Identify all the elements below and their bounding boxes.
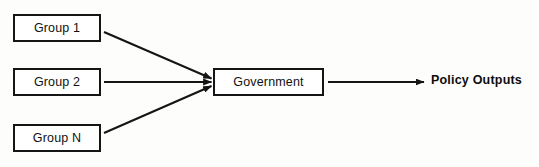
node-group-2-label: Group 2: [34, 76, 80, 89]
node-group-n: Group N: [13, 124, 101, 152]
node-government: Government: [213, 68, 324, 96]
edge-group-1-to-government: [104, 32, 212, 79]
node-group-1: Group 1: [13, 14, 101, 42]
flowchart-diagram: Group 1 Group 2 Group N Government Polic…: [0, 0, 539, 167]
node-government-label: Government: [233, 76, 303, 89]
edge-group-n-to-government: [104, 86, 212, 133]
node-group-1-label: Group 1: [34, 22, 80, 35]
node-group-n-label: Group N: [33, 132, 81, 145]
node-group-2: Group 2: [13, 68, 101, 96]
node-policy-outputs-label: Policy Outputs: [431, 74, 522, 87]
